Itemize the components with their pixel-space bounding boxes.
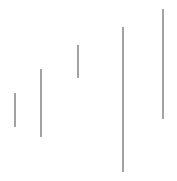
range-chart	[0, 0, 177, 181]
